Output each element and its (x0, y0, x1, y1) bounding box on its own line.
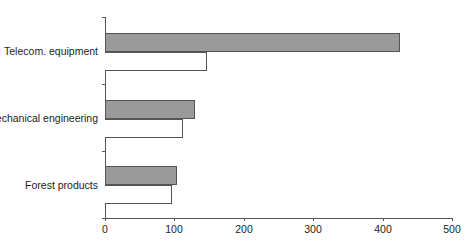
bar-series1-0 (105, 33, 400, 52)
x-tick-label: 300 (304, 223, 322, 235)
y-tick (102, 151, 105, 152)
bar-series1-2 (105, 166, 177, 185)
category-label-mechanical: Mechanical engineering (0, 112, 98, 124)
bar-series2-0 (105, 52, 207, 71)
category-label-telecom: Telecom. equipment (4, 45, 98, 57)
bar-series1-1 (105, 100, 195, 119)
bar-series2-1 (105, 119, 183, 138)
x-tick (383, 218, 384, 221)
y-tick (102, 17, 105, 18)
bar-series2-2 (105, 185, 172, 204)
x-tick (174, 218, 175, 221)
x-tick-label: 200 (235, 223, 253, 235)
x-tick (105, 218, 106, 221)
x-tick (452, 218, 453, 221)
x-tick-label: 400 (374, 223, 392, 235)
x-tick-label: 0 (102, 223, 108, 235)
y-tick (102, 84, 105, 85)
x-tick (244, 218, 245, 221)
category-label-forest: Forest products (25, 179, 98, 191)
x-tick-label: 100 (165, 223, 183, 235)
x-axis (105, 218, 452, 219)
x-tick-label: 500 (443, 223, 461, 235)
x-tick (313, 218, 314, 221)
bar-chart: Telecom. equipment Mechanical engineerin… (0, 0, 465, 243)
